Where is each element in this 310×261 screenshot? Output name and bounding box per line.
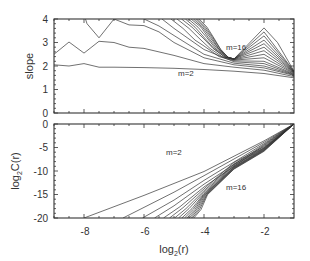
bottom-annotation-m16: m=16: [226, 183, 247, 192]
bottom-y-tick-0: 0: [42, 119, 48, 130]
top-curves: [54, 19, 294, 78]
top-y-tick-0: 0: [42, 108, 48, 119]
series-line-m16: [199, 19, 294, 71]
chart: 4 3 2 1 0 slope m=16 m=2 0 -5 -10 -15 -2…: [0, 0, 310, 261]
top-y-tick-4: 4: [42, 14, 48, 25]
x-tick-minus2: -2: [261, 226, 270, 237]
x-tick-minus4: -4: [201, 226, 210, 237]
bottom-y-tick-labels: 0 -5 -10 -15 -20: [34, 119, 49, 224]
bottom-ticks: [54, 124, 294, 218]
bottom-curves: [84, 124, 294, 218]
top-y-tick-2: 2: [42, 61, 48, 72]
top-panel-slope: 4 3 2 1 0 slope m=16 m=2: [23, 14, 294, 119]
top-annotation-m2: m=2: [178, 69, 194, 78]
bottom-y-axis-title: log2C(r): [9, 152, 23, 190]
bottom-y-tick-minus5: -5: [39, 142, 48, 153]
top-y-tick-3: 3: [42, 37, 48, 48]
series-line-m2: [84, 124, 294, 218]
bottom-y-tick-minus15: -15: [34, 189, 49, 200]
top-plot-frame: [54, 19, 294, 113]
x-tick-labels: -8 -6 -4 -2: [81, 226, 270, 237]
bottom-panel-correlation: 0 -5 -10 -15 -20 log2C(r) m=2 m=16: [9, 119, 294, 224]
top-ticks: [54, 19, 294, 113]
top-annotation-m16: m=16: [226, 43, 247, 52]
bottom-annotation-m2: m=2: [166, 148, 182, 157]
bottom-y-tick-minus20: -20: [34, 213, 49, 224]
top-y-tick-labels: 4 3 2 1 0: [42, 14, 48, 119]
bottom-y-tick-minus10: -10: [34, 166, 49, 177]
series-line-m16: [194, 124, 294, 218]
x-axis-title: log2(r): [159, 243, 189, 257]
bottom-plot-frame: [54, 124, 294, 218]
x-tick-minus6: -6: [141, 226, 150, 237]
top-y-axis-title: slope: [23, 53, 35, 79]
x-tick-minus8: -8: [81, 226, 90, 237]
top-y-tick-1: 1: [42, 84, 48, 95]
